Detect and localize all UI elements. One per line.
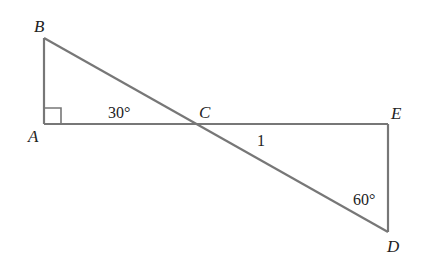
angle-label-acb: 30° [108, 104, 130, 121]
vertex-label-b: B [34, 17, 45, 36]
vertex-label-d: D [386, 237, 400, 256]
length-label-cd: 1 [257, 132, 265, 149]
geometry-diagram: B A C E D 30° 1 60° [0, 0, 421, 265]
vertex-label-c: C [199, 103, 211, 122]
vertex-label-e: E [390, 104, 402, 123]
vertex-label-a: A [27, 127, 39, 146]
right-angle-marker [44, 108, 61, 124]
diagram-canvas: B A C E D 30° 1 60° [0, 0, 421, 265]
segment-bd [44, 38, 388, 232]
angle-label-edc: 60° [353, 191, 375, 208]
